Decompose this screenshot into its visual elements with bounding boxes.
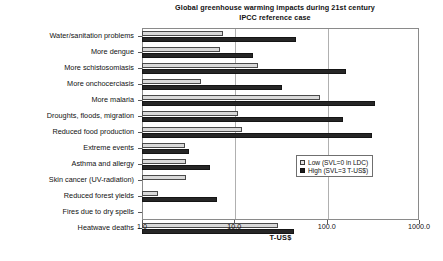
x-axis-tick-label: 10.0 xyxy=(227,222,241,231)
bar-row xyxy=(142,140,419,156)
bar-high xyxy=(142,69,346,74)
bar-high xyxy=(142,85,282,90)
y-axis-label: Reduced forest yields xyxy=(0,188,138,204)
bar-high xyxy=(142,197,217,202)
bar-low xyxy=(142,191,158,196)
y-axis-label: Droughts, floods, migration xyxy=(0,108,138,124)
bar-low xyxy=(142,111,238,116)
x-axis-tick-label: 100.0 xyxy=(318,222,336,231)
bar-low xyxy=(142,159,186,164)
bar-high xyxy=(142,37,296,42)
bar-low xyxy=(142,63,258,68)
bar-low xyxy=(142,143,185,148)
legend-label: Low (SVL=0 in LDC) xyxy=(308,159,368,166)
x-axis-title: T-US$ xyxy=(142,233,419,242)
chart-title-block: Global greenhouse warming impacts during… xyxy=(150,3,400,22)
y-axis-label: More schistosomiasis xyxy=(0,60,138,76)
y-axis-label: Heatwave deaths xyxy=(0,220,138,236)
bar-row xyxy=(142,44,419,60)
bar-low xyxy=(142,31,223,36)
bar-low xyxy=(142,47,220,52)
bar-row xyxy=(142,188,419,204)
bar-high xyxy=(142,101,375,106)
bar-high xyxy=(142,165,210,170)
legend-swatch-high xyxy=(300,168,305,173)
bar-high xyxy=(142,53,253,58)
y-axis-label: More dengue xyxy=(0,44,138,60)
legend-label: High (SVL=3 T-US$) xyxy=(308,167,368,174)
y-axis-label: Water/sanitation problems xyxy=(0,28,138,44)
bar-low xyxy=(142,127,242,132)
bar-low xyxy=(142,79,201,84)
legend-swatch-low xyxy=(300,160,305,165)
y-axis-label: Skin cancer (UV-radiation) xyxy=(0,172,138,188)
bar-row xyxy=(142,76,419,92)
y-axis-label: Extreme events xyxy=(0,140,138,156)
y-axis-label: Asthma and allergy xyxy=(0,156,138,172)
bar-row xyxy=(142,124,419,140)
bar-row xyxy=(142,60,419,76)
x-axis-tick-label: 1000.0 xyxy=(408,222,430,231)
bar-row xyxy=(142,172,419,188)
legend-item: Low (SVL=0 in LDC) xyxy=(300,158,368,166)
bar-high xyxy=(142,133,372,138)
chart-title: Global greenhouse warming impacts during… xyxy=(150,3,400,13)
y-axis-labels: Water/sanitation problemsMore dengueMore… xyxy=(0,28,138,220)
y-axis-label: Reduced food production xyxy=(0,124,138,140)
bar-high xyxy=(142,117,343,122)
chart-legend: Low (SVL=0 in LDC)High (SVL=3 T-US$) xyxy=(296,155,373,177)
y-axis-label: More malaria xyxy=(0,92,138,108)
bar-row xyxy=(142,92,419,108)
bars-layer xyxy=(142,28,419,220)
chart-subtitle: IPCC reference case xyxy=(150,13,400,23)
y-axis-label: Fires due to dry spells xyxy=(0,204,138,220)
bar-high xyxy=(142,149,189,154)
bar-low xyxy=(142,95,320,100)
legend-item: High (SVL=3 T-US$) xyxy=(300,166,368,174)
y-axis-label: More onchocerciasis xyxy=(0,76,138,92)
bar-row xyxy=(142,204,419,220)
bar-low xyxy=(142,175,186,180)
bar-row xyxy=(142,28,419,44)
x-axis-tick-label: 1.0 xyxy=(137,222,147,231)
bar-row xyxy=(142,108,419,124)
bar-row xyxy=(142,156,419,172)
chart-container: Global greenhouse warming impacts during… xyxy=(0,0,443,261)
